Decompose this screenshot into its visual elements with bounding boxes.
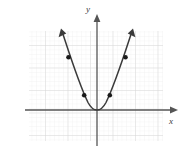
parabola-plot — [0, 0, 189, 149]
graph-figure: y x — [0, 0, 189, 149]
y-axis-label: y — [86, 5, 90, 14]
x-axis-label: x — [169, 117, 173, 126]
grid-major — [29, 31, 163, 141]
data-point — [108, 93, 113, 98]
data-point — [82, 93, 87, 98]
data-point — [123, 55, 128, 60]
data-point — [66, 55, 71, 60]
